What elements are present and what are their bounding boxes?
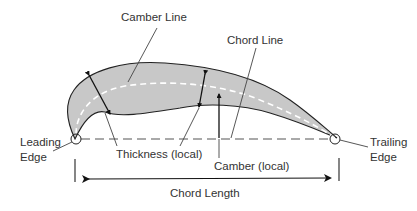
chord-length-arrow	[88, 178, 330, 179]
thickness-leader-1	[105, 113, 117, 146]
thickness-label: Thickness (local)	[116, 148, 202, 160]
trailing-edge-leader	[340, 140, 368, 147]
camber-label: Camber (local)	[214, 160, 290, 172]
trailing-edge-label-line2: Edge	[370, 151, 397, 163]
leading-edge-label-line2: Edge	[20, 151, 47, 163]
airfoil-shape	[67, 62, 337, 139]
chord-line-label: Chord Line	[227, 34, 283, 46]
trailing-edge-label-line1: Trailing	[370, 136, 407, 148]
leading-edge-label-line1: Leading	[20, 136, 61, 148]
chord-length-label: Chord Length	[170, 187, 240, 199]
camber-line-label: Camber Line	[121, 11, 187, 23]
trailing-edge-marker	[330, 134, 340, 144]
airfoil-diagram: Camber Line Chord Line Leading Edge Trai…	[0, 0, 417, 211]
thickness-leader-2	[180, 108, 199, 146]
